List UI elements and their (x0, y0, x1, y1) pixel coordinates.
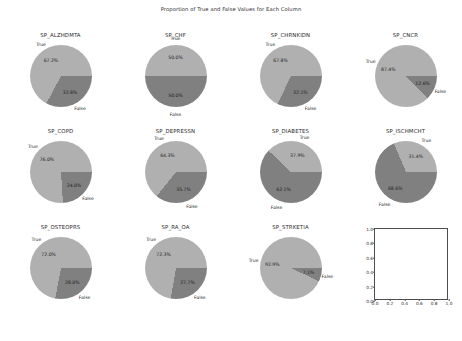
pie-panel-sp-chf: SP_CHF50.0%True50.0%False (118, 26, 233, 122)
pie-panel-sp-alzhdmta: SP_ALZHDMTA67.2%True32.8%False (3, 26, 118, 122)
slice-percent-false: 32.1% (293, 89, 308, 94)
y-tick-label: 0.8 (366, 241, 373, 246)
slice-label-false: False (271, 205, 283, 210)
pie-slices (30, 237, 92, 299)
y-tick-mark (373, 229, 375, 230)
pie-graphic: 87.4%True12.6%False (375, 45, 437, 107)
pie-slices (375, 141, 437, 203)
slice-percent-false: 24.0% (67, 182, 82, 187)
slice-percent-true: 72.3% (156, 251, 171, 256)
slice-label-false: False (170, 111, 182, 116)
pie-slices (145, 237, 207, 299)
pie-panel-sp-copd: SP_COPD76.0%True24.0%False (3, 122, 118, 218)
slice-label-false: False (379, 201, 391, 206)
pie-graphic: 37.9%True62.1%False (260, 141, 322, 203)
pie-slices (375, 45, 437, 107)
pie-slices (260, 45, 322, 107)
axes-frame: 0.00.20.40.60.81.00.00.20.40.60.81.0 (374, 228, 448, 300)
slice-label-false: False (79, 295, 91, 300)
y-tick-label: 0.4 (366, 270, 373, 275)
slice-label-true: True (28, 144, 38, 149)
slice-label-true: True (249, 257, 259, 262)
slice-percent-true: 37.9% (290, 152, 305, 157)
x-tick-label: 1.0 (446, 301, 453, 306)
slice-percent-false: 62.1% (276, 187, 291, 192)
slice-label-false: False (305, 106, 317, 111)
figure-canvas: Proportion of True and False Values for … (0, 0, 462, 341)
panel-title: SP_STRKETIA (233, 224, 348, 230)
slice-label-true: True (171, 36, 181, 41)
pie-panel-sp-depressn: SP_DEPRESSN64.3%True35.7%False (118, 122, 233, 218)
pie-graphic: 67.8%True32.1%False (260, 45, 322, 107)
y-tick-mark (373, 286, 375, 287)
x-tick-label: 0.4 (401, 301, 408, 306)
x-tick-label: 0.0 (372, 301, 379, 306)
slice-percent-true: 72.0% (41, 251, 56, 256)
slice-label-true: True (421, 138, 431, 143)
slice-percent-true: 67.8% (273, 58, 288, 63)
x-tick-label: 0.8 (431, 301, 438, 306)
slice-label-false: False (82, 195, 94, 200)
slice-percent-false: 27.7% (180, 280, 195, 285)
pie-slices (30, 141, 92, 203)
pie-slices (260, 237, 322, 299)
slice-percent-false: 68.6% (388, 185, 403, 190)
pie-panel-sp-strketia: SP_STRKETIA92.9%True7.1%False (233, 218, 348, 314)
slice-label-false: False (435, 88, 447, 93)
panel-title: SP_DEPRESSN (118, 128, 233, 134)
y-tick-mark (373, 272, 375, 273)
slice-percent-true: 76.0% (40, 157, 55, 162)
panel-title: SP_CNCR (348, 32, 462, 38)
panel-title: SP_DIABETES (233, 128, 348, 134)
slice-label-false: False (186, 204, 198, 209)
pie-panel-sp-ischmcht: SP_ISCHMCHT31.4%True68.6%False (348, 122, 462, 218)
slice-percent-false: 28.0% (65, 280, 80, 285)
slice-percent-true: 64.3% (160, 153, 175, 158)
x-tick-label: 0.6 (416, 301, 423, 306)
slice-percent-false: 35.7% (176, 186, 191, 191)
slice-percent-false: 32.8% (63, 89, 78, 94)
slice-label-true: True (366, 59, 376, 64)
slice-label-true: True (36, 41, 46, 46)
slice-label-false: False (194, 294, 206, 299)
panel-title: SP_ISCHMCHT (348, 128, 462, 134)
pie-graphic: 72.0%True28.0%False (30, 237, 92, 299)
y-tick-label: 1.0 (366, 227, 373, 232)
slice-percent-true: 31.4% (408, 154, 423, 159)
slice-percent-false: 12.6% (415, 81, 430, 86)
slice-percent-false: 50.0% (168, 92, 183, 97)
slice-label-false: False (322, 274, 334, 279)
slice-label-true: True (32, 236, 42, 241)
y-tick-mark (373, 243, 375, 244)
slice-label-true: True (265, 41, 275, 46)
y-tick-label: 0.6 (366, 255, 373, 260)
pie-graphic: 92.9%True7.1%False (260, 237, 322, 299)
x-tick-label: 0.2 (386, 301, 393, 306)
panel-title: SP_OSTEOPRS (3, 224, 118, 230)
pie-graphic: 50.0%True50.0%False (145, 45, 207, 107)
figure-title: Proportion of True and False Values for … (0, 6, 462, 12)
slice-label-true: True (300, 134, 310, 139)
empty-subplot-axes: 0.00.20.40.60.81.00.00.20.40.60.81.0 (348, 218, 462, 314)
panel-title: SP_ALZHDMTA (3, 32, 118, 38)
pie-graphic: 76.0%True24.0%False (30, 141, 92, 203)
pie-slices (145, 141, 207, 203)
panel-title: SP_RA_OA (118, 224, 233, 230)
pie-graphic: 31.4%True68.6%False (375, 141, 437, 203)
panel-title: SP_COPD (3, 128, 118, 134)
pie-panel-sp-ra-oa: SP_RA_OA72.3%True27.7%False (118, 218, 233, 314)
slice-percent-true: 67.2% (44, 58, 59, 63)
slice-label-true: True (154, 135, 164, 140)
slice-percent-true: 92.9% (265, 261, 280, 266)
slice-label-true: True (146, 237, 156, 242)
y-tick-mark (373, 258, 375, 259)
pie-graphic: 64.3%True35.7%False (145, 141, 207, 203)
panel-title: SP_CHRNKIDN (233, 32, 348, 38)
slice-percent-true: 50.0% (168, 55, 183, 60)
pie-panel-sp-diabetes: SP_DIABETES37.9%True62.1%False (233, 122, 348, 218)
y-tick-label: 0.2 (366, 284, 373, 289)
slice-label-false: False (74, 106, 86, 111)
pie-panel-sp-cncr: SP_CNCR87.4%True12.6%False (348, 26, 462, 122)
pie-panel-sp-chrnkidn: SP_CHRNKIDN67.8%True32.1%False (233, 26, 348, 122)
pie-panel-sp-osteoprs: SP_OSTEOPRS72.0%True28.0%False (3, 218, 118, 314)
